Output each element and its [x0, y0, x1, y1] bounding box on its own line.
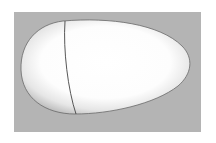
egg-shape	[21, 20, 190, 114]
egg-render	[0, 0, 216, 143]
